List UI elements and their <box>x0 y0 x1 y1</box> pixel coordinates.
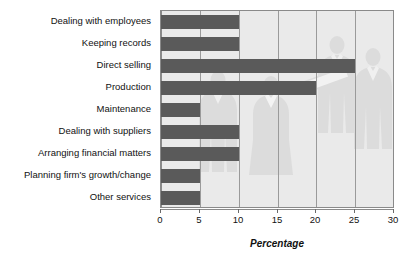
category-label: Dealing with suppliers <box>59 120 151 142</box>
bar <box>161 37 239 51</box>
x-tick-label: 20 <box>302 214 328 225</box>
category-label: Other services <box>90 186 151 208</box>
gridline-10 <box>239 11 240 207</box>
bar <box>161 15 239 29</box>
x-tick-label: 30 <box>380 214 406 225</box>
bar <box>161 191 200 205</box>
bar <box>161 103 200 117</box>
x-tick-label: 5 <box>186 214 212 225</box>
x-tick-5 <box>199 209 200 213</box>
x-tick-label: 25 <box>341 214 367 225</box>
x-tick-10 <box>238 209 239 213</box>
bar-chart: Dealing with employeesKeeping recordsDir… <box>0 0 415 262</box>
category-axis-labels: Dealing with employeesKeeping recordsDir… <box>0 10 155 208</box>
bar <box>161 59 355 73</box>
category-label: Planning firm's growth/change <box>24 164 151 186</box>
x-axis-title: Percentage <box>160 238 394 249</box>
x-tick-30 <box>393 209 394 213</box>
category-label: Production <box>106 76 151 98</box>
gridline-20 <box>316 11 317 207</box>
category-label: Dealing with employees <box>51 10 151 32</box>
category-label: Arranging financial matters <box>38 142 151 164</box>
x-tick-25 <box>354 209 355 213</box>
x-tick-label: 0 <box>147 214 173 225</box>
x-tick-20 <box>315 209 316 213</box>
bar <box>161 147 239 161</box>
category-label: Direct selling <box>97 54 151 76</box>
category-label: Keeping records <box>82 32 151 54</box>
x-tick-0 <box>160 209 161 213</box>
x-tick-15 <box>277 209 278 213</box>
category-label: Maintenance <box>97 98 151 120</box>
gridline-25 <box>355 11 356 207</box>
bar <box>161 169 200 183</box>
gridline-15 <box>278 11 279 207</box>
bar <box>161 125 239 139</box>
plot-area <box>160 10 394 208</box>
x-tick-label: 10 <box>225 214 251 225</box>
x-tick-label: 15 <box>264 214 290 225</box>
silhouette-man-right <box>354 48 392 149</box>
bar <box>161 81 316 95</box>
